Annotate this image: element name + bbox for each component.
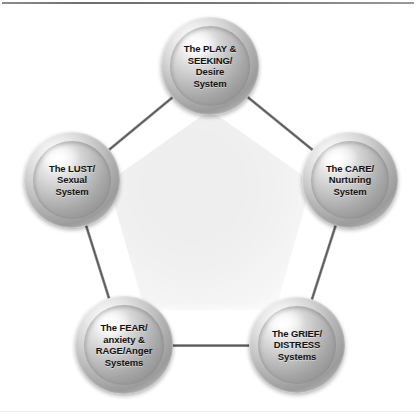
sphere-label-lust-sexual: The LUST/ Sexual System: [45, 163, 99, 198]
sphere-care-nurturing[interactable]: The CARE/ Nurturing System: [302, 132, 398, 228]
diagram-canvas: The PLAY & SEEKING/ Desire SystemThe CAR…: [0, 0, 420, 418]
sphere-label-care-nurturing: The CARE/ Nurturing System: [322, 163, 378, 198]
sphere-grief-distress[interactable]: The GRIEF/ DISTRESS Systems: [249, 297, 345, 393]
top-divider-rule: [2, 2, 414, 4]
sphere-lust-sexual[interactable]: The LUST/ Sexual System: [24, 132, 120, 228]
bottom-divider-rule: [0, 411, 420, 412]
sphere-label-play-seeking: The PLAY & SEEKING/ Desire System: [180, 43, 240, 89]
sphere-fear-rage[interactable]: The FEAR/ anxiety & RAGE/Anger Systems: [75, 296, 173, 394]
center-pentagon-wash: [108, 110, 312, 310]
sphere-label-grief-distress: The GRIEF/ DISTRESS Systems: [268, 328, 326, 363]
sphere-label-fear-rage: The FEAR/ anxiety & RAGE/Anger Systems: [92, 322, 157, 368]
sphere-play-seeking[interactable]: The PLAY & SEEKING/ Desire System: [161, 17, 259, 115]
